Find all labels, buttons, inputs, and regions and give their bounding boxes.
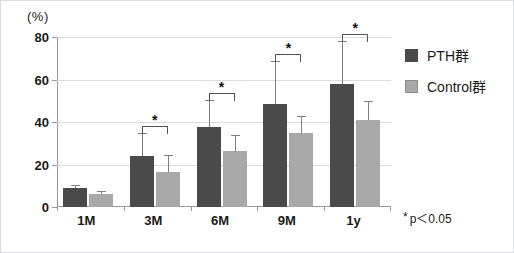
bar-control bbox=[89, 194, 113, 207]
bar-group bbox=[191, 37, 258, 207]
error-bar-cap bbox=[97, 191, 106, 192]
y-axis-tick-label: 60 bbox=[35, 72, 49, 87]
x-axis-tick-label: 1y bbox=[346, 213, 360, 228]
legend-item-control: Control群 bbox=[405, 76, 486, 96]
x-axis-tick-mark bbox=[390, 207, 391, 211]
significance-star: * bbox=[352, 23, 357, 33]
y-axis-tick-label: 20 bbox=[35, 157, 49, 172]
x-axis-tick-label: 3M bbox=[144, 213, 162, 228]
legend-swatch-icon-pth bbox=[405, 49, 418, 62]
error-bar bbox=[275, 61, 276, 104]
error-bar bbox=[235, 135, 236, 151]
bar-group bbox=[324, 37, 391, 207]
bar-control bbox=[356, 120, 380, 207]
chart-legend: PTH群 Control群 bbox=[405, 45, 486, 107]
error-bar bbox=[209, 100, 210, 128]
error-bar bbox=[368, 101, 369, 120]
x-axis-tick-mark bbox=[57, 207, 58, 211]
error-bar-cap bbox=[364, 101, 373, 102]
legend-label-pth: PTH群 bbox=[427, 45, 469, 65]
error-bar-cap bbox=[231, 135, 240, 136]
footnote-text: p＜0.05 bbox=[410, 212, 452, 226]
error-bar-cap bbox=[297, 116, 306, 117]
x-axis-tick-mark bbox=[124, 207, 125, 211]
error-bar bbox=[168, 155, 169, 172]
x-axis-tick-label: 9M bbox=[278, 213, 296, 228]
x-axis-tick-label: 6M bbox=[211, 213, 229, 228]
bar-group bbox=[257, 37, 324, 207]
y-axis-tick-label: 40 bbox=[35, 115, 49, 130]
significance-footnote: *p＜0.05 bbox=[403, 209, 452, 226]
y-axis-tick-label: 0 bbox=[42, 200, 49, 215]
significance-star: * bbox=[219, 82, 224, 92]
error-bar bbox=[342, 41, 343, 84]
y-axis-unit-label: (%) bbox=[27, 9, 49, 24]
significance-star: * bbox=[286, 43, 291, 53]
bar-group bbox=[57, 37, 124, 207]
error-bar-cap bbox=[164, 155, 173, 156]
bar-control bbox=[223, 151, 247, 207]
legend-label-control: Control群 bbox=[427, 76, 486, 96]
bar-pth bbox=[263, 104, 287, 207]
x-axis-tick-mark bbox=[324, 207, 325, 211]
legend-swatch-icon-control bbox=[405, 80, 418, 93]
error-bar bbox=[301, 116, 302, 133]
x-axis-tick-label: 1M bbox=[77, 213, 95, 228]
bar-pth bbox=[63, 188, 87, 207]
x-axis-tick-mark bbox=[257, 207, 258, 211]
error-bar bbox=[142, 133, 143, 156]
error-bar-cap bbox=[71, 185, 80, 186]
legend-item-pth: PTH群 bbox=[405, 45, 486, 65]
bar-pth bbox=[197, 127, 221, 207]
bar-pth bbox=[130, 156, 154, 207]
footnote-star-marker: * bbox=[403, 210, 408, 224]
plot-area: 020406080**** bbox=[57, 37, 391, 207]
bar-pth bbox=[330, 84, 354, 207]
significance-star: * bbox=[152, 115, 157, 125]
bar-control bbox=[289, 133, 313, 207]
x-axis-tick-mark bbox=[191, 207, 192, 211]
bar-control bbox=[156, 172, 180, 207]
y-axis-tick-label: 80 bbox=[35, 30, 49, 45]
chart-figure: (%) 020406080**** PTH群 Control群 *p＜0.05 … bbox=[0, 0, 514, 253]
